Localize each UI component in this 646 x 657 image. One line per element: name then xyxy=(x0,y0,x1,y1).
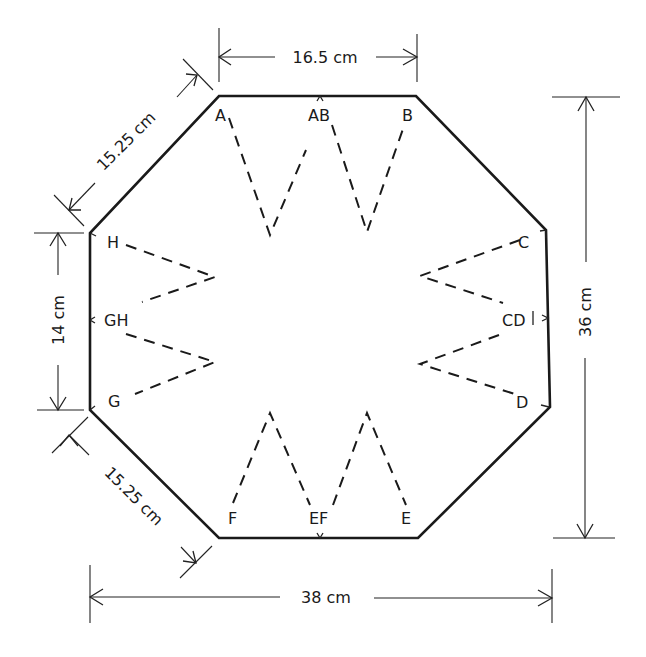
label-g: G xyxy=(108,392,120,411)
d-corner-mark xyxy=(541,405,549,407)
dim-label-lower-diagonal: 15.25 cm xyxy=(101,463,168,530)
dart-right-upper xyxy=(420,240,520,303)
dart-top-right xyxy=(332,125,404,232)
dimension-upper-left-diagonal: 15.25 cm xyxy=(54,59,213,226)
dimension-top-edge: 16.5 cm xyxy=(219,28,417,82)
octagon-pattern-diagram: A AB B C CD D E EF F G GH H 16.5 cm 15.2… xyxy=(0,0,646,657)
dim-label-width: 38 cm xyxy=(301,588,351,607)
label-ef: EF xyxy=(309,509,328,528)
label-b: B xyxy=(402,106,413,125)
label-c: C xyxy=(518,233,529,252)
dimension-overall-width: 38 cm xyxy=(90,565,552,623)
dim-label-top: 16.5 cm xyxy=(292,48,357,67)
label-a: A xyxy=(215,106,226,125)
cd-midpoint-mark xyxy=(533,311,548,325)
dimension-lower-left-diagonal: 15.25 cm xyxy=(52,417,212,578)
label-d: D xyxy=(516,393,528,412)
label-ab: AB xyxy=(308,106,330,125)
dart-right-lower xyxy=(420,335,518,395)
dimension-left-edge: 14 cm xyxy=(34,233,84,410)
dimension-overall-height: 36 cm xyxy=(552,97,620,538)
label-h: H xyxy=(107,233,119,252)
dart-top-left xyxy=(229,118,306,235)
dart-bottom-left xyxy=(233,413,310,505)
label-e: E xyxy=(401,509,411,528)
dim-label-height: 36 cm xyxy=(576,287,595,337)
dart-left-lower xyxy=(126,334,215,394)
label-f: F xyxy=(228,509,237,528)
dim-label-left: 14 cm xyxy=(49,295,68,345)
dart-bottom-right xyxy=(333,413,406,505)
label-cd: CD xyxy=(502,311,526,330)
octagon-outline xyxy=(90,96,550,538)
dart-left-upper xyxy=(126,245,215,302)
dim-label-upper-diagonal: 15.25 cm xyxy=(93,108,160,175)
label-gh: GH xyxy=(104,311,128,330)
